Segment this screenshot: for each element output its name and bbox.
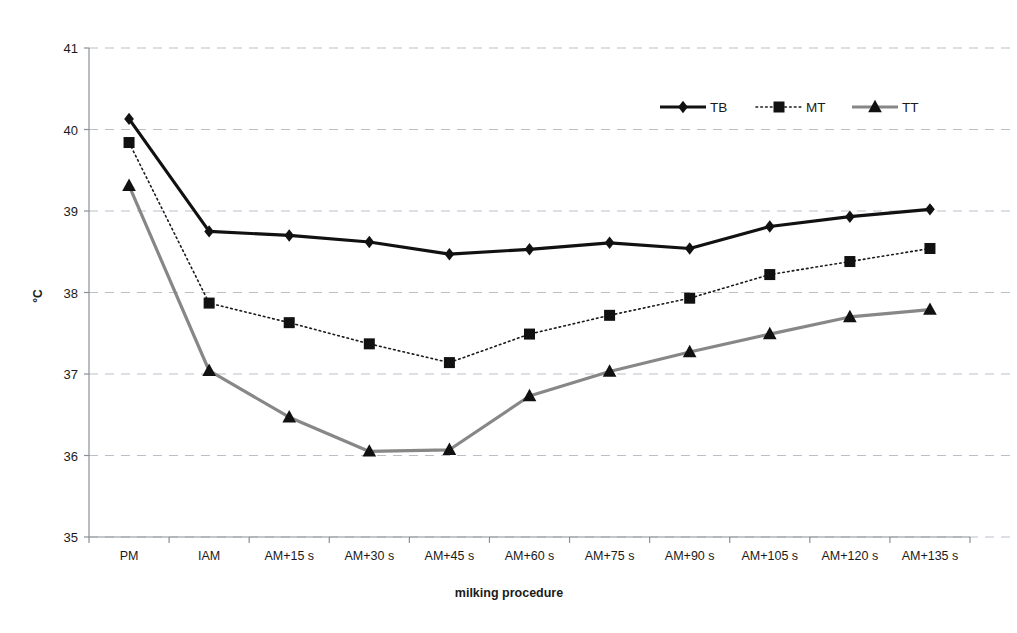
y-axis-title: °C [31,289,45,303]
x-tick-label: AM+90 s [665,549,715,563]
x-tick-label: AM+105 s [741,549,798,563]
legend-label-tb: TB [710,100,727,115]
y-tick-label: 39 [64,204,78,219]
y-tick-label: 36 [64,449,78,464]
data-point-tb-6 [605,237,615,249]
x-tick-label: PM [120,549,139,563]
axis-lines [84,48,970,543]
x-tick-label: IAM [198,549,220,563]
y-tick-label: 37 [64,367,78,382]
data-point-tb-2 [284,229,294,241]
data-point-tt-0 [122,179,136,191]
y-tick-label: 41 [64,41,78,56]
series-line-tt [129,186,930,452]
data-point-tb-5 [525,243,535,255]
data-point-tb-3 [364,236,374,248]
data-series [122,113,937,457]
x-tick-label: AM+45 s [425,549,475,563]
series-line-tb [129,119,930,254]
legend-label-tt: TT [902,100,919,115]
x-tick-labels: PMIAMAM+15 sAM+30 sAM+45 sAM+60 sAM+75 s… [120,549,959,563]
data-point-mt-1 [204,298,215,309]
data-point-mt-7 [684,293,695,304]
data-point-tt-1 [202,364,216,376]
x-tick-label: AM+120 s [822,549,879,563]
data-point-tb-7 [685,242,695,254]
legend-marker-mt [774,102,785,113]
data-point-mt-9 [844,256,855,267]
line-chart: 35363738394041 PMIAMAM+15 sAM+30 sAM+45 … [0,0,1017,633]
legend-marker-tb [678,101,688,113]
y-tick-label: 38 [64,286,78,301]
x-tick-label: AM+15 s [264,549,314,563]
legend-label-mt: MT [806,100,826,115]
data-point-mt-3 [364,338,375,349]
x-tick-label: AM+135 s [902,549,959,563]
x-tick-label: AM+30 s [344,549,394,563]
data-point-tb-8 [765,220,775,232]
gridlines [89,48,1010,537]
legend: TBMTTT [660,100,919,115]
x-axis-title: milking procedure [455,586,563,600]
data-point-mt-6 [604,310,615,321]
data-point-mt-2 [284,317,295,328]
y-tick-label: 35 [64,530,78,545]
x-tick-label: AM+60 s [505,549,555,563]
y-tick-label: 40 [64,123,78,138]
data-point-tb-4 [445,248,455,260]
data-point-mt-5 [524,329,535,340]
data-point-mt-8 [764,269,775,280]
series-tb [124,113,935,261]
x-tick-label: AM+75 s [585,549,635,563]
data-point-mt-0 [124,137,135,148]
y-tick-labels: 35363738394041 [64,41,78,545]
data-point-tb-9 [845,211,855,223]
data-point-mt-4 [444,357,455,368]
data-point-tb-10 [925,203,935,215]
chart-canvas: 35363738394041 PMIAMAM+15 sAM+30 sAM+45 … [0,0,1017,633]
data-point-mt-10 [924,243,935,254]
